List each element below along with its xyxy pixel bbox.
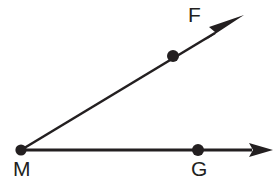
- point-label-g: G: [191, 158, 207, 179]
- point-m-dot: [15, 144, 26, 155]
- geometry-canvas: [0, 0, 276, 196]
- point-label-f: F: [188, 4, 201, 25]
- angle-diagram: F M G: [0, 0, 276, 196]
- point-label-m: M: [13, 158, 31, 179]
- ray-mf-arrowhead: [206, 15, 244, 40]
- ray-mf-line: [21, 33, 215, 150]
- ray-mg: [21, 143, 273, 157]
- point-f-dot: [167, 50, 179, 62]
- ray-mf: [21, 15, 244, 150]
- point-g-dot: [192, 144, 204, 156]
- ray-mg-arrowhead: [249, 143, 273, 157]
